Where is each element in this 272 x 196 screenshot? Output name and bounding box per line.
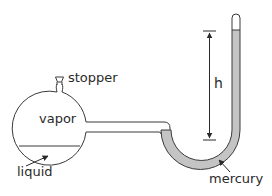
connecting-tube	[86, 122, 170, 134]
liquid-label: liquid	[17, 165, 53, 178]
stopper-label: stopper	[68, 71, 118, 84]
mercury-label: mercury	[209, 172, 263, 185]
vapor-label: vapor	[39, 112, 76, 125]
stopper	[56, 77, 64, 85]
mercury-column	[161, 30, 240, 170]
manometer-diagram: stopper vapor liquid mercury h	[0, 0, 272, 196]
height-label: h	[214, 76, 223, 90]
